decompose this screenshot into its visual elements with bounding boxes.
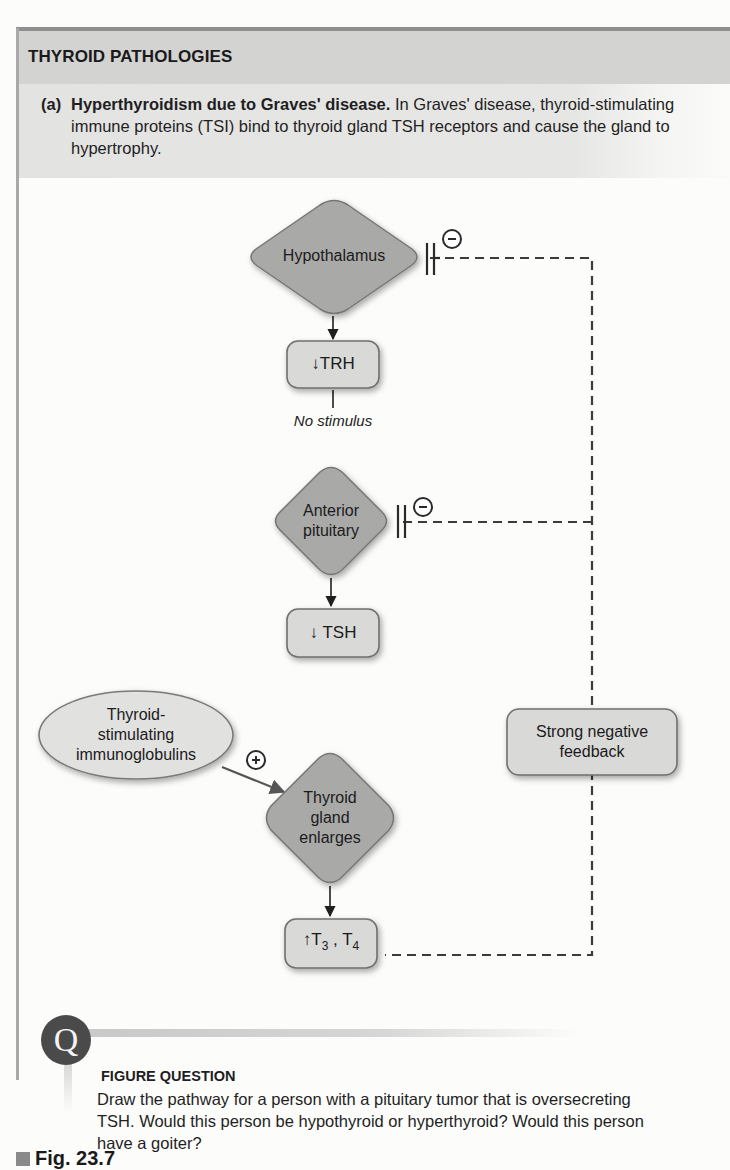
tsh-label: ↓ TSH [310,623,357,643]
figure-question-text: Draw the pathway for a person with a pit… [97,1088,657,1154]
t3-t4-label: ↑T3 , T4 [303,930,360,955]
trh-label: ↓TRH [311,354,354,374]
negative-feedback-lines [385,258,592,955]
inhibition-minus-icon [442,229,462,249]
inhibition-minus-icon [413,497,433,517]
question-q-icon: Q [41,1015,91,1065]
question-stem-bar [64,1062,72,1112]
feedback-label: Strong negative feedback [536,722,648,762]
stimulation-arrow [222,767,284,792]
figure-question-heading: FIGURE QUESTION [101,1068,236,1084]
hypothalamus-label: Hypothalamus [283,246,385,266]
no-stimulus-note: No stimulus [294,412,372,429]
question-divider [88,1029,578,1037]
decrease-arrow-icon: ↓ [311,354,320,373]
stimulation-plus-icon [246,750,266,770]
figure-label: Fig. 23.7 [16,1147,115,1170]
thyroid-gland-label: Thyroid gland enlarges [299,788,360,848]
increase-arrow-icon: ↑ [303,930,312,949]
anterior-pituitary-label: Anterior pituitary [303,501,359,541]
tsi-label: Thyroid- stimulating immunoglobulins [76,705,196,765]
figure-label-marker [16,1152,30,1166]
decrease-arrow-icon: ↓ [310,623,319,642]
inhibition-bars [398,243,440,538]
